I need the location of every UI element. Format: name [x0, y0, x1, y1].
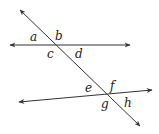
angle-label-d: d [75, 47, 83, 61]
angle-label-g: g [101, 97, 109, 111]
transversal-line [20, 10, 140, 126]
angle-label-c: c [47, 47, 54, 61]
angle-label-a: a [30, 30, 37, 44]
angle-label-h: h [124, 96, 132, 110]
angles-diagram: a b c d e f g h [0, 0, 159, 134]
angle-label-b: b [55, 29, 63, 43]
angle-label-e: e [85, 81, 92, 95]
angle-label-f: f [109, 79, 117, 93]
